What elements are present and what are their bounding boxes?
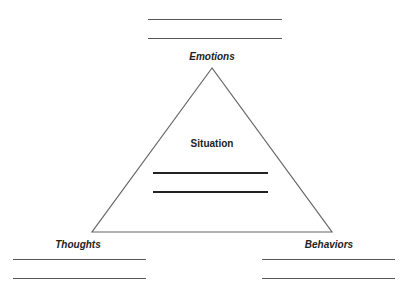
emotions-blank-line-2[interactable] <box>148 38 282 39</box>
thoughts-label: Thoughts <box>28 239 128 250</box>
situation-label: Situation <box>162 138 262 149</box>
situation-blank-line-1[interactable] <box>153 172 268 174</box>
situation-blank-line-2[interactable] <box>153 191 268 193</box>
thoughts-blank-line-1[interactable] <box>13 259 146 260</box>
behaviors-blank-line-2[interactable] <box>262 278 395 279</box>
emotions-label: Emotions <box>162 51 262 62</box>
behaviors-blank-line-1[interactable] <box>262 259 395 260</box>
emotions-blank-line-1[interactable] <box>148 19 282 20</box>
thoughts-blank-line-2[interactable] <box>13 278 146 279</box>
behaviors-label: Behaviors <box>279 239 379 250</box>
